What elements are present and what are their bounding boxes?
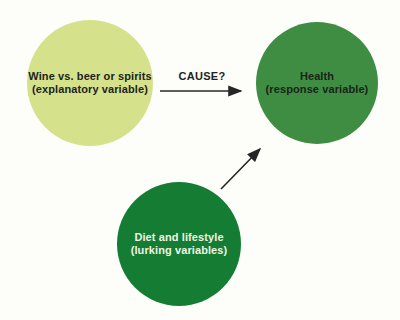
response-variable-line2: (response variable) — [266, 83, 369, 97]
lurking-variables-node: Diet and lifestyle (lurking variables) — [117, 182, 241, 306]
causal-diagram: Wine vs. beer or spirits (explanatory va… — [0, 0, 400, 320]
lurking-variables-label: Diet and lifestyle (lurking variables) — [131, 231, 228, 258]
lurking-variables-line2: (lurking variables) — [131, 244, 228, 258]
lurking-variables-line1: Diet and lifestyle — [131, 231, 228, 245]
explanatory-variable-label: Wine vs. beer or spirits (explanatory va… — [28, 70, 151, 97]
explanatory-variable-line2: (explanatory variable) — [28, 83, 151, 97]
explanatory-variable-line1: Wine vs. beer or spirits — [28, 70, 151, 84]
response-variable-label: Health (response variable) — [266, 70, 369, 97]
lurking-arrow — [221, 149, 260, 189]
cause-label: CAUSE? — [160, 70, 244, 82]
explanatory-variable-node: Wine vs. beer or spirits (explanatory va… — [27, 20, 153, 146]
response-variable-line1: Health — [266, 70, 369, 84]
response-variable-node: Health (response variable) — [256, 22, 378, 144]
